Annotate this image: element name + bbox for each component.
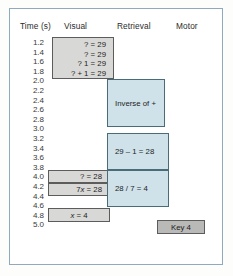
visual-line-3: ? 1 = 29	[57, 59, 106, 69]
retrieval-event-box-division: 28 / 7 = 4	[107, 170, 169, 207]
visual-line-2: ? = 29	[57, 50, 106, 60]
retrieval-subtraction-label: 29 – 1 = 28	[115, 147, 154, 156]
visual-x4-label: x = 4	[70, 211, 87, 220]
retrieval-inverse-label: Inverse of +	[115, 99, 156, 108]
visual-7x-label: 7x = 28	[76, 185, 102, 194]
visual-line-1: ? = 29	[57, 40, 106, 50]
visual-event-box-x4: x = 4	[48, 208, 110, 222]
visual-event-box-7x: 7x = 28	[48, 183, 110, 196]
retrieval-division-label: 28 / 7 = 4	[115, 184, 148, 193]
retrieval-event-box-subtraction: 29 – 1 = 28	[107, 133, 169, 170]
visual-event-box-encoding: ? = 29 ? = 29 ? 1 = 29 ? + 1 = 29	[52, 37, 114, 79]
retrieval-event-box-inverse: Inverse of +	[107, 79, 165, 127]
event-tracks: ? = 29 ? = 29 ? 1 = 29 ? + 1 = 29 Invers…	[0, 0, 233, 276]
act-r-timeline-figure: Time (s) Visual Retrieval Motor 1.2 1.4 …	[0, 0, 233, 276]
visual-q28-label: ? = 28	[80, 172, 102, 181]
motor-event-box-key: Key 4	[157, 220, 205, 234]
visual-event-box-q28: ? = 28	[48, 170, 110, 183]
motor-key-label: Key 4	[171, 223, 191, 232]
visual-line-4: ? + 1 = 29	[57, 69, 106, 79]
